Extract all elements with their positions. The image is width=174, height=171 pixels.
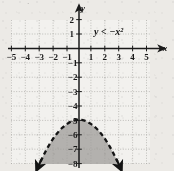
y-tick-label: −5: [68, 116, 78, 126]
y-tick-label: −3: [68, 87, 78, 97]
y-tick-label: −7: [68, 144, 78, 154]
inequality-label: y < −x2: [93, 26, 124, 37]
x-tick-label: 5: [144, 52, 149, 62]
y-tick-label: −1: [68, 58, 78, 68]
figure-container: −5 −4 −3 −2 −1 1 2 3 4 5 2 1 −1 −2 −3 −4…: [0, 0, 174, 171]
inequality-label-text: y < −x: [93, 26, 120, 37]
y-axis-label: y: [80, 3, 86, 13]
x-tick-label: 1: [89, 52, 94, 62]
x-tick-label: 2: [103, 52, 108, 62]
x-tick-label: −2: [48, 52, 58, 62]
x-tick-label: −4: [20, 52, 30, 62]
x-tick-label: 3: [116, 52, 121, 62]
x-tick-label: −3: [34, 52, 44, 62]
scan-artifact-mark: ·: [27, 0, 29, 8]
x-tick-label: −5: [7, 52, 17, 62]
y-tick-label: 2: [70, 15, 75, 25]
y-tick-label: −8: [68, 159, 78, 169]
x-tick-label: 4: [130, 52, 135, 62]
x-axis-label: x: [162, 43, 168, 53]
y-tick-label: −6: [68, 130, 78, 140]
y-tick-label: −2: [68, 72, 78, 82]
y-tick-label: 1: [70, 29, 75, 39]
inequality-graph: −5 −4 −3 −2 −1 1 2 3 4 5 2 1 −1 −2 −3 −4…: [0, 0, 174, 171]
y-tick-label: −4: [68, 101, 78, 111]
